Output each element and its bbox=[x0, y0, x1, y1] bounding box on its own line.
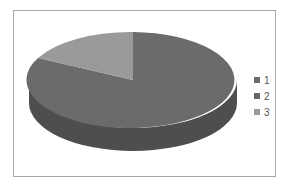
pie-chart bbox=[0, 0, 286, 192]
legend-swatch-icon bbox=[254, 77, 260, 83]
legend-label: 3 bbox=[264, 107, 270, 118]
legend-label: 2 bbox=[264, 91, 270, 102]
legend-label: 1 bbox=[264, 75, 270, 86]
legend-item-2: 2 bbox=[254, 88, 270, 104]
legend-swatch-icon bbox=[254, 93, 260, 99]
legend-item-3: 3 bbox=[254, 104, 270, 120]
legend-swatch-icon bbox=[254, 109, 260, 115]
legend: 1 2 3 bbox=[254, 72, 270, 120]
legend-item-1: 1 bbox=[254, 72, 270, 88]
